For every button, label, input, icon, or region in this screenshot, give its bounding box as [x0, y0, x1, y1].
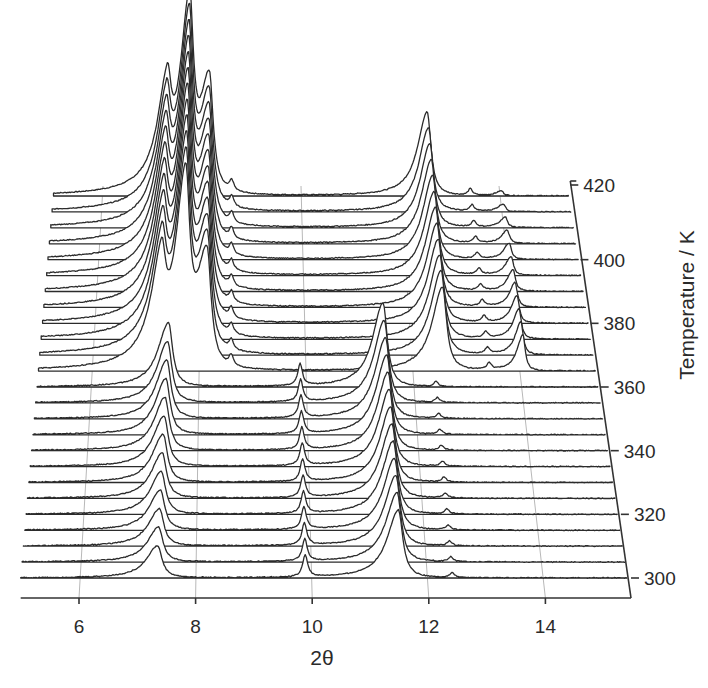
temperature-tick-label: 380 [604, 313, 636, 334]
gridlines [21, 186, 627, 598]
xrd-waterfall-chart: 68101214 300320340360380400420 2θ Temper… [0, 0, 708, 688]
temperature-axis-title: Temperature / K [675, 230, 698, 379]
trace-420K [54, 0, 569, 196]
temperature-tick-label: 340 [624, 441, 656, 462]
x-axis-ticks: 68101214 [74, 598, 557, 637]
x-tick-label: 14 [535, 616, 557, 637]
x-tick-label: 10 [302, 616, 323, 637]
temperature-axis-ticks: 300320340360380400420 [570, 175, 675, 589]
x-tick-label: 8 [190, 616, 201, 637]
diffraction-traces [21, 0, 627, 578]
x-tick-label: 6 [74, 616, 85, 637]
temperature-tick-label: 420 [583, 175, 615, 196]
x-gridline [79, 186, 103, 598]
x-axis-title: 2θ [310, 646, 333, 669]
temperature-tick-label: 300 [644, 568, 676, 589]
temperature-tick-label: 360 [614, 377, 646, 398]
temperature-tick-label: 320 [634, 504, 666, 525]
x-tick-label: 12 [418, 616, 439, 637]
temperature-tick-label: 400 [593, 250, 625, 271]
